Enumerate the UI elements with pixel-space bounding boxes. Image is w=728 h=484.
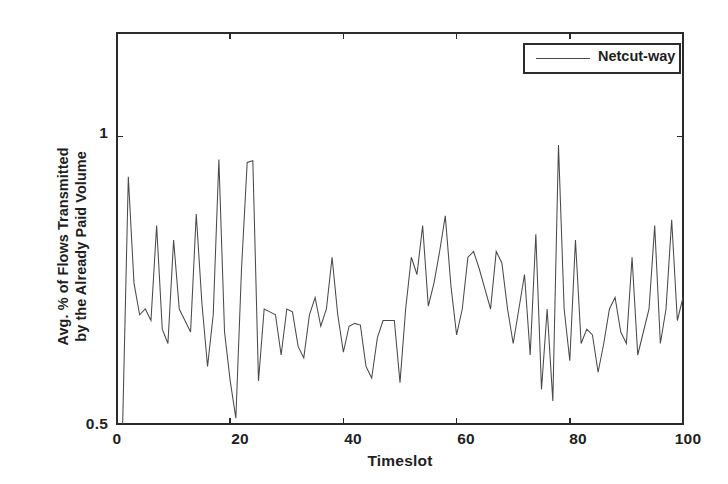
tick-marks [117, 33, 683, 424]
axis-frame [117, 33, 683, 424]
y-axis-title: Avg. % of Flows Transmitted by the Alrea… [54, 96, 91, 396]
figure-canvas: Netcut-way 0 20 40 60 80 100 0.5 1 Times… [0, 0, 728, 484]
legend-label-netcut-way: Netcut-way [598, 48, 675, 64]
series-line-netcut-way [123, 145, 683, 424]
y-tick-label-0-5: 0.5 [68, 415, 108, 433]
x-axis-title: Timeslot [0, 452, 728, 470]
y-axis-title-line1: Avg. % of Flows Transmitted [54, 96, 72, 396]
x-tick-label-80: 80 [569, 430, 587, 448]
x-tick-label-0: 0 [113, 430, 122, 448]
x-tick-label-60: 60 [457, 430, 475, 448]
axis-frame-path [117, 33, 683, 424]
x-tick-label-100: 100 [675, 430, 701, 448]
chart-plot-area [0, 0, 728, 484]
x-axis-title-text: Timeslot [367, 452, 432, 470]
x-tick-label-20: 20 [231, 430, 249, 448]
x-tick-label-40: 40 [344, 430, 362, 448]
data-series-group [123, 145, 683, 424]
y-axis-title-line2: by the Already Paid Volume [72, 96, 90, 396]
